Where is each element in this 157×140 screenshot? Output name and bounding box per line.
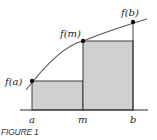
point-fa [30,79,34,83]
axis-label-m: m [78,114,87,125]
axis-label-a: a [29,114,35,125]
label-fm: f(m) [59,28,81,39]
point-fm [81,39,85,43]
left-rectangle [32,81,83,110]
figure-diagram: f(a) f(m) f(b) a m b FIGURE 1 [0,0,157,140]
figure-caption: FIGURE 1 [1,127,39,137]
right-rectangle [83,41,133,110]
label-fb: f(b) [120,7,139,18]
point-fb [131,20,135,24]
label-fa: f(a) [4,76,23,87]
axis-label-b: b [130,114,136,125]
